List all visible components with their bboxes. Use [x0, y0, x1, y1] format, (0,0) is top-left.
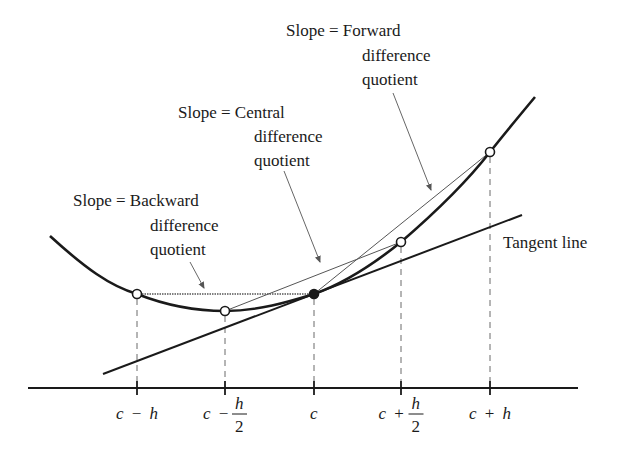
point-c-plus-h [486, 148, 495, 157]
tick-label-c: c [310, 404, 318, 423]
tick-label-c-minus-h: c − h [116, 404, 158, 423]
tick-labels: c − h c − h 2 c c + h 2 [116, 394, 511, 436]
forward-secant [314, 152, 490, 294]
backward-label-line3: quotient [150, 240, 206, 259]
forward-label-line2: difference [362, 46, 431, 65]
central-secant [225, 242, 401, 311]
backward-label: Slope = Backward difference quotient [73, 191, 219, 259]
point-c-minus-half-h [221, 307, 230, 316]
point-c-minus-h [133, 290, 142, 299]
backward-label-line2: difference [150, 216, 219, 235]
forward-label-line1: Slope = Forward [286, 21, 401, 40]
svg-text:c −: c − [203, 404, 228, 423]
central-label-line1: Slope = Central [178, 103, 285, 122]
svg-text:c: c [310, 404, 318, 423]
central-label-line2: difference [254, 127, 323, 146]
svg-text:c +: c + [379, 404, 404, 423]
forward-label: Slope = Forward difference quotient [286, 21, 431, 89]
leader-arrows [190, 93, 431, 288]
tangent-line-label: Tangent line [503, 233, 587, 252]
svg-text:2: 2 [235, 417, 244, 436]
tick-label-c-plus-h: c + h [469, 404, 511, 423]
point-c [310, 290, 319, 299]
difference-quotient-diagram: Slope = Forward difference quotient Slop… [0, 0, 642, 454]
svg-text:c − h: c − h [116, 404, 158, 423]
tick-label-c-minus-half-h: c − h 2 [203, 394, 247, 436]
forward-label-line3: quotient [362, 70, 418, 89]
svg-text:c + h: c + h [469, 404, 511, 423]
forward-leader-arrow [393, 93, 431, 190]
svg-text:h: h [235, 394, 244, 413]
backward-leader-arrow [190, 262, 204, 288]
backward-label-line1: Slope = Backward [73, 191, 199, 210]
point-c-plus-half-h [397, 238, 406, 247]
tick-label-c-plus-half-h: c + h 2 [379, 394, 424, 436]
svg-text:h: h [412, 394, 421, 413]
central-label-line3: quotient [254, 151, 310, 170]
svg-text:2: 2 [412, 417, 421, 436]
central-leader-arrow [284, 171, 320, 262]
central-label: Slope = Central difference quotient [178, 103, 323, 170]
